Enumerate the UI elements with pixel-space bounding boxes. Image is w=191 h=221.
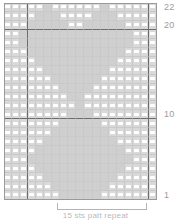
chart-cell[interactable] [4, 3, 12, 12]
chart-cell[interactable] [36, 48, 44, 57]
chart-cell[interactable] [28, 12, 36, 21]
chart-cell[interactable] [117, 21, 125, 30]
chart-cell[interactable] [12, 3, 20, 12]
chart-cell[interactable] [52, 137, 60, 146]
chart-cell[interactable] [76, 137, 84, 146]
chart-cell[interactable] [133, 39, 141, 48]
chart-cell[interactable] [117, 119, 125, 128]
chart-cell[interactable] [117, 57, 125, 66]
chart-cell[interactable] [52, 110, 60, 119]
chart-cell[interactable] [12, 93, 20, 102]
chart-cell[interactable] [4, 146, 12, 155]
chart-cell[interactable] [68, 75, 76, 84]
chart-cell[interactable] [84, 173, 92, 182]
chart-cell[interactable] [109, 66, 117, 75]
chart-cell[interactable] [12, 21, 20, 30]
chart-cell[interactable] [125, 48, 133, 57]
chart-cell[interactable] [133, 173, 141, 182]
chart-cell[interactable] [125, 155, 133, 164]
chart-cell[interactable] [36, 128, 44, 137]
chart-cell[interactable] [4, 173, 12, 182]
chart-cell[interactable] [60, 128, 68, 137]
chart-cell[interactable] [101, 39, 109, 48]
chart-cell[interactable] [20, 137, 28, 146]
chart-cell[interactable] [109, 93, 117, 102]
chart-cell[interactable] [28, 93, 36, 102]
chart-cell[interactable] [28, 48, 36, 57]
chart-cell[interactable] [4, 164, 12, 173]
chart-cell[interactable] [76, 93, 84, 102]
chart-cell[interactable] [44, 110, 52, 119]
chart-cell[interactable] [4, 57, 12, 66]
chart-cell[interactable] [4, 84, 12, 93]
chart-cell[interactable] [12, 30, 20, 39]
chart-cell[interactable] [101, 93, 109, 102]
chart-cell[interactable] [84, 101, 92, 110]
chart-cell[interactable] [149, 173, 157, 182]
chart-cell[interactable] [20, 155, 28, 164]
chart-cell[interactable] [4, 48, 12, 57]
chart-cell[interactable] [117, 93, 125, 102]
chart-cell[interactable] [52, 66, 60, 75]
chart-cell[interactable] [125, 75, 133, 84]
chart-cell[interactable] [133, 101, 141, 110]
chart-cell[interactable] [117, 75, 125, 84]
chart-cell[interactable] [125, 110, 133, 119]
chart-cell[interactable] [76, 48, 84, 57]
chart-cell[interactable] [133, 84, 141, 93]
chart-cell[interactable] [68, 146, 76, 155]
chart-cell[interactable] [4, 119, 12, 128]
chart-cell[interactable] [44, 137, 52, 146]
chart-cell[interactable] [133, 21, 141, 30]
chart-cell[interactable] [28, 84, 36, 93]
chart-cell[interactable] [20, 146, 28, 155]
chart-cell[interactable] [52, 3, 60, 12]
chart-cell[interactable] [109, 48, 117, 57]
chart-cell[interactable] [109, 39, 117, 48]
chart-cell[interactable] [52, 155, 60, 164]
chart-cell[interactable] [4, 30, 12, 39]
chart-cell[interactable] [44, 21, 52, 30]
chart-cell[interactable] [60, 66, 68, 75]
chart-cell[interactable] [12, 137, 20, 146]
chart-cell[interactable] [20, 182, 28, 191]
chart-cell[interactable] [12, 128, 20, 137]
chart-cell[interactable] [44, 30, 52, 39]
chart-cell[interactable] [101, 57, 109, 66]
chart-cell[interactable] [133, 182, 141, 191]
chart-cell[interactable] [109, 173, 117, 182]
chart-cell[interactable] [93, 39, 101, 48]
chart-cell[interactable] [68, 39, 76, 48]
chart-cell[interactable] [141, 48, 149, 57]
chart-cell[interactable] [93, 75, 101, 84]
chart-cell[interactable] [125, 119, 133, 128]
chart-cell[interactable] [141, 30, 149, 39]
chart-cell[interactable] [76, 173, 84, 182]
chart-cell[interactable] [68, 66, 76, 75]
chart-cell[interactable] [4, 155, 12, 164]
chart-cell[interactable] [84, 84, 92, 93]
chart-cell[interactable] [68, 173, 76, 182]
chart-cell[interactable] [68, 48, 76, 57]
chart-cell[interactable] [133, 137, 141, 146]
chart-cell[interactable] [44, 12, 52, 21]
chart-cell[interactable] [44, 164, 52, 173]
chart-cell[interactable] [52, 101, 60, 110]
chart-cell[interactable] [60, 137, 68, 146]
chart-cell[interactable] [52, 48, 60, 57]
chart-cell[interactable] [12, 84, 20, 93]
chart-cell[interactable] [109, 12, 117, 21]
chart-cell[interactable] [20, 3, 28, 12]
chart-cell[interactable] [84, 30, 92, 39]
chart-cell[interactable] [28, 155, 36, 164]
chart-cell[interactable] [93, 146, 101, 155]
chart-cell[interactable] [36, 75, 44, 84]
chart-cell[interactable] [101, 191, 109, 200]
chart-cell[interactable] [141, 128, 149, 137]
chart-cell[interactable] [125, 12, 133, 21]
chart-cell[interactable] [101, 48, 109, 57]
chart-cell[interactable] [52, 128, 60, 137]
chart-cell[interactable] [76, 191, 84, 200]
chart-cell[interactable] [4, 182, 12, 191]
chart-cell[interactable] [84, 12, 92, 21]
